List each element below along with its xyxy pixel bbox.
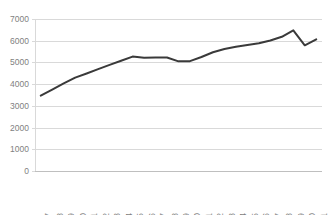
y-tick-label-3000: 3000 bbox=[10, 102, 29, 111]
x-tick-label-2011: 2011 bbox=[205, 213, 214, 215]
gridline-0 bbox=[35, 171, 322, 172]
x-tick-label-2008: 2008 bbox=[171, 213, 180, 215]
x-axis-labels: 1997199819992000200120022003200420052006… bbox=[35, 173, 322, 215]
x-tick-label-2015: 2015 bbox=[251, 213, 260, 215]
x-tick-label-2021: 2021 bbox=[320, 213, 329, 215]
line-chart: 01000200030004000500060007000 1997199819… bbox=[0, 0, 334, 215]
x-tick-label-2018: 2018 bbox=[285, 213, 294, 215]
y-tick-label-7000: 7000 bbox=[10, 15, 29, 24]
x-tick-label-2009: 2009 bbox=[182, 213, 191, 215]
y-tick-label-5000: 5000 bbox=[10, 58, 29, 67]
x-tick-label-2017: 2017 bbox=[274, 213, 283, 215]
x-tick-label-2007: 2007 bbox=[159, 213, 168, 215]
plot-area bbox=[35, 19, 322, 171]
y-tick-label-6000: 6000 bbox=[10, 36, 29, 45]
series-line bbox=[41, 30, 317, 95]
y-tick-label-0: 0 bbox=[24, 167, 29, 176]
x-tick-label-2020: 2020 bbox=[308, 213, 317, 215]
x-tick-label-2012: 2012 bbox=[216, 213, 225, 215]
x-tick-label-2006: 2006 bbox=[148, 213, 157, 215]
x-tick-label-2019: 2019 bbox=[297, 213, 306, 215]
x-tick-label-2003: 2003 bbox=[113, 213, 122, 215]
x-tick-label-2000: 2000 bbox=[79, 213, 88, 215]
x-tick-label-2014: 2014 bbox=[239, 213, 248, 215]
x-tick-label-1997: 1997 bbox=[44, 213, 53, 215]
y-axis-labels: 01000200030004000500060007000 bbox=[0, 0, 33, 215]
x-tick-label-2016: 2016 bbox=[262, 213, 271, 215]
y-tick-label-1000: 1000 bbox=[10, 145, 29, 154]
series-line-group bbox=[35, 19, 322, 171]
x-tick-label-2005: 2005 bbox=[136, 213, 145, 215]
x-tick-label-1999: 1999 bbox=[67, 213, 76, 215]
x-tick-label-1998: 1998 bbox=[56, 213, 65, 215]
y-tick-label-2000: 2000 bbox=[10, 123, 29, 132]
y-tick-label-4000: 4000 bbox=[10, 80, 29, 89]
x-tick-label-2004: 2004 bbox=[125, 213, 134, 215]
x-tick-label-2001: 2001 bbox=[90, 213, 99, 215]
x-tick-label-2010: 2010 bbox=[193, 213, 202, 215]
x-tick-label-2013: 2013 bbox=[228, 213, 237, 215]
x-tick-label-2002: 2002 bbox=[102, 213, 111, 215]
